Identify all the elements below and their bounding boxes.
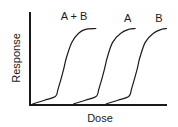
series-label-a-b: A + B [61,10,88,22]
y-axis-label: Response [10,33,22,83]
series-label-a: A [124,12,132,24]
dose-response-chart: Response Dose A + BAB [0,0,178,127]
series-line-a [73,29,136,105]
x-axis-label: Dose [87,112,113,124]
series-line-a-b [32,29,96,105]
series-layer: A + BAB [32,10,167,104]
series-label-b: B [155,12,162,24]
